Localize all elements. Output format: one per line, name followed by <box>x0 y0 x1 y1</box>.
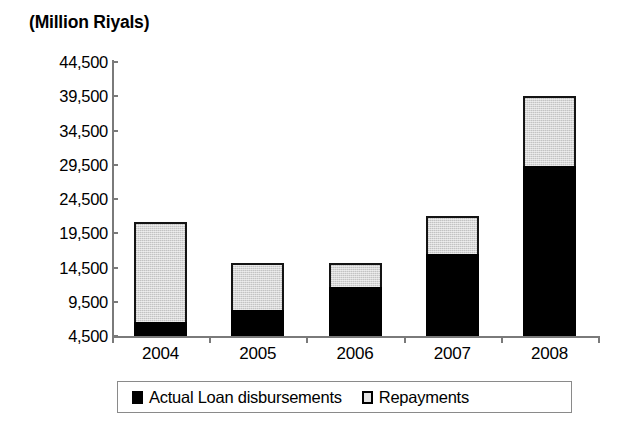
x-tick-mark <box>598 336 600 343</box>
x-tick-mark <box>306 336 308 343</box>
bar-segment-repayments-2006 <box>329 263 382 289</box>
legend-label-disbursements: Actual Loan disbursements <box>149 388 342 407</box>
y-tick-mark <box>112 198 118 200</box>
bar-2007 <box>426 216 479 336</box>
x-tick-label-2004: 2004 <box>142 344 179 364</box>
bar-segment-disbursements-2006 <box>329 287 382 336</box>
legend-label-repayments: Repayments <box>379 388 469 407</box>
bar-segment-disbursements-2008 <box>523 166 576 336</box>
x-tick-label-2005: 2005 <box>239 344 276 364</box>
bar-2005 <box>231 263 284 336</box>
y-tick-label: 39,500 <box>59 87 108 106</box>
y-tick-mark <box>112 164 118 166</box>
x-tick-mark <box>209 336 211 343</box>
chart-legend: Actual Loan disbursements Repayments <box>117 381 572 413</box>
bar-chart-figure: (Million Riyals) 44,50039,50034,50029,50… <box>0 0 625 433</box>
bar-2006 <box>329 263 382 336</box>
bar-segment-disbursements-2005 <box>231 310 284 336</box>
bar-segment-repayments-2005 <box>231 263 284 312</box>
bar-segment-repayments-2008 <box>523 96 576 168</box>
bar-2004 <box>134 222 187 336</box>
y-tick-label: 19,500 <box>59 224 108 243</box>
x-tick-mark <box>112 336 114 343</box>
bar-segment-repayments-2007 <box>426 216 479 256</box>
y-tick-label: 29,500 <box>59 155 108 174</box>
y-tick-label: 44,500 <box>59 53 108 72</box>
x-tick-mark <box>501 336 503 343</box>
y-tick-mark <box>112 130 118 132</box>
chart-title: (Million Riyals) <box>29 12 149 33</box>
y-tick-mark <box>112 61 118 63</box>
y-tick-label: 14,500 <box>59 258 108 277</box>
x-tick-mark <box>404 336 406 343</box>
bar-segment-disbursements-2007 <box>426 254 479 336</box>
x-tick-label-2006: 2006 <box>336 344 373 364</box>
y-tick-label: 34,500 <box>59 121 108 140</box>
y-tick-mark <box>112 301 118 303</box>
y-tick-mark <box>112 232 118 234</box>
y-tick-mark <box>112 267 118 269</box>
bar-2008 <box>523 96 576 336</box>
outlined-square-icon <box>362 391 373 404</box>
y-tick-label: 24,500 <box>59 190 108 209</box>
x-tick-label-2007: 2007 <box>434 344 471 364</box>
bar-segment-disbursements-2004 <box>134 322 187 336</box>
legend-item-disbursements: Actual Loan disbursements <box>132 388 342 407</box>
x-tick-label-2008: 2008 <box>531 344 568 364</box>
x-axis-line <box>112 336 599 338</box>
legend-item-repayments: Repayments <box>362 388 469 407</box>
bar-segment-repayments-2004 <box>134 222 187 325</box>
y-tick-label: 9,500 <box>68 292 108 311</box>
y-tick-label: 4,500 <box>68 327 108 346</box>
y-tick-mark <box>112 95 118 97</box>
filled-square-icon <box>132 391 143 404</box>
